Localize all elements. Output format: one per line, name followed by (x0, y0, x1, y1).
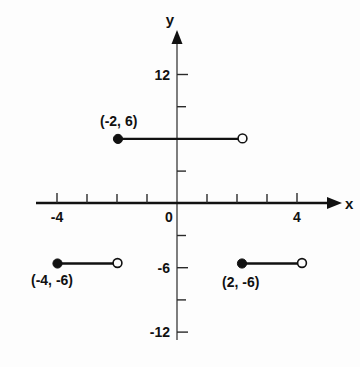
x-axis-label: x (345, 195, 354, 212)
segment-1-label: (-2, 6) (100, 113, 137, 129)
y-axis-arrow-icon (172, 30, 183, 44)
segment-3-label: (2, -6) (222, 274, 259, 290)
y-axis-label: y (166, 11, 175, 28)
origin-label: 0 (165, 209, 173, 225)
coordinate-plane-figure: y 12 -6 -12 x (0, 0, 360, 367)
x-axis-tick-labels: -4 0 4 (51, 209, 301, 225)
segment-1-closed-endpoint (113, 134, 122, 143)
segment-3-closed-endpoint (237, 259, 246, 268)
segment-2-closed-endpoint (53, 259, 62, 268)
x-tick-label-4: 4 (293, 209, 301, 225)
segment-3-group: (2, -6) (222, 259, 306, 290)
segment-1-group: (-2, 6) (100, 113, 247, 143)
graph-canvas: y 12 -6 -12 x (0, 0, 360, 367)
segment-3-open-endpoint (298, 259, 307, 268)
y-axis: y (166, 11, 183, 340)
x-axis: x (36, 195, 354, 212)
x-tick-label-neg4: -4 (51, 209, 64, 225)
segment-2-open-endpoint (113, 259, 122, 268)
x-axis-arrow-icon (327, 197, 342, 209)
y-tick-label-neg6: -6 (158, 260, 171, 276)
segment-2-label: (-4, -6) (31, 272, 73, 288)
y-tick-label-12: 12 (154, 67, 170, 83)
segment-2-group: (-4, -6) (31, 259, 122, 288)
segment-1-open-endpoint (238, 134, 247, 143)
y-tick-label-neg12: -12 (150, 324, 170, 340)
